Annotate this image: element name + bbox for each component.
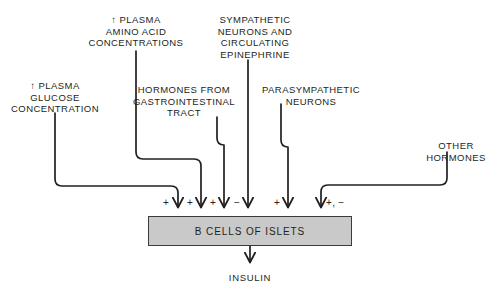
sign-parasympathetic-neurons: + <box>274 197 280 208</box>
label-parasympathetic-neurons: PARASYMPATHETIC NEURONS <box>262 84 360 107</box>
sign-plasma-glucose: + <box>163 197 169 208</box>
sign-other-hormones: +, − <box>326 197 344 208</box>
insulin-output-label: INSULIN <box>229 272 271 283</box>
b-cells-of-islets-label: B CELLS OF ISLETS <box>195 226 305 237</box>
label-plasma-glucose: ↑ PLASMA GLUCOSE CONCENTRATION <box>11 80 99 115</box>
sign-plasma-amino-acid: + <box>187 197 193 208</box>
sign-sympathetic-neurons: − <box>234 197 240 208</box>
label-sympathetic-neurons: SYMPATHETIC NEURONS AND CIRCULATING EPIN… <box>218 14 293 60</box>
connector-plasma-glucose <box>55 113 178 207</box>
b-cells-of-islets-box: B CELLS OF ISLETS <box>148 216 352 246</box>
connector-plasma-amino-acid <box>136 51 201 207</box>
sign-gi-hormones: + <box>210 197 216 208</box>
label-plasma-amino-acid: ↑ PLASMA AMINO ACID CONCENTRATIONS <box>89 14 184 49</box>
insulin-secretion-diagram: ↑ PLASMA GLUCOSE CONCENTRATION ↑ PLASMA … <box>0 0 494 288</box>
connector-gi-hormones <box>217 117 224 207</box>
label-gi-hormones: HORMONES FROM GASTROINTESTINAL TRACT <box>133 84 235 119</box>
connector-parasympathetic-neurons <box>281 104 288 207</box>
label-other-hormones: OTHER HORMONES <box>426 140 486 163</box>
